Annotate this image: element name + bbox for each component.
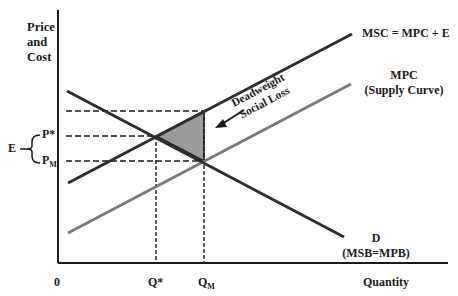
- x-axis-label: Quantity: [363, 275, 409, 290]
- q-m-sub: M: [207, 282, 215, 291]
- demand-label-line1: D: [342, 231, 410, 246]
- p-star-label: P*: [42, 127, 55, 142]
- deadweight-loss-area: [156, 111, 204, 161]
- externality-brace-icon: [27, 135, 40, 163]
- arrow-head-icon: [215, 119, 227, 128]
- demand-label: D (MSB=MPB): [342, 231, 410, 261]
- q-star-label: Q*: [148, 275, 163, 290]
- mpc-label-line1: MPC: [358, 68, 450, 83]
- y-label-and: and: [27, 35, 55, 50]
- p-m-label: PM: [42, 153, 57, 172]
- q-m-main: Q: [198, 275, 207, 289]
- msc-label: MSC = MPC + E: [362, 26, 450, 41]
- mpc-supply-curve: [68, 84, 351, 233]
- y-axis-label: Price and Cost: [27, 20, 55, 65]
- mpc-label: MPC (Supply Curve): [358, 68, 450, 98]
- origin-label: 0: [54, 275, 60, 290]
- y-label-price: Price: [27, 20, 55, 35]
- externality-label: E: [8, 141, 16, 156]
- msc-curve: [68, 34, 352, 183]
- demand-label-line2: (MSB=MPB): [342, 246, 410, 261]
- mpc-label-line2: (Supply Curve): [358, 83, 450, 98]
- q-m-label: QM: [198, 275, 215, 294]
- demand-curve: [67, 91, 344, 237]
- p-m-sub: M: [49, 160, 57, 169]
- externality-diagram: Price and Cost P* PM E MSC = MPC + E MPC…: [0, 0, 458, 296]
- y-label-cost: Cost: [27, 50, 55, 65]
